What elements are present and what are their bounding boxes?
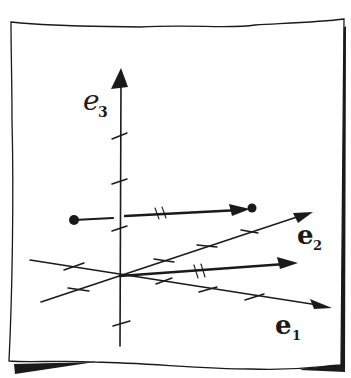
coordinate-sketch: e 3 e 2 e 1	[0, 0, 351, 378]
paper-shadow-bottom	[14, 362, 95, 374]
svg-text:2: 2	[313, 238, 322, 253]
svg-text:1: 1	[292, 328, 301, 343]
svg-text:e: e	[275, 310, 292, 340]
diagram-canvas: e 3 e 2 e 1	[0, 0, 351, 378]
svg-text:3: 3	[98, 104, 108, 120]
end-dot	[248, 204, 257, 213]
svg-text:e: e	[297, 220, 314, 250]
paper-sheet	[9, 19, 344, 369]
